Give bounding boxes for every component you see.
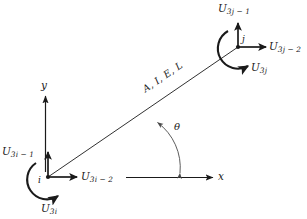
beam-element-diagram: U3j − 1 U3j − 2 U3j j U3i − 1 U3i − 2 U3…: [0, 0, 307, 219]
node-j-axial-dof-subscript: 3j − 2: [278, 45, 301, 54]
node-i-rotation-arrow: [27, 163, 58, 199]
node-i-rotation-dof-label: U3i: [41, 203, 57, 215]
node-i-transverse-dof-symbol: U: [2, 145, 11, 157]
node-j-rotation-dof-label: U3j: [251, 62, 267, 74]
node-j-axial-dof-symbol: U: [269, 40, 278, 52]
node-i-transverse-dof-label: U3i − 1: [2, 146, 34, 158]
node-j-axial-dof-label: U3j − 2: [269, 41, 301, 53]
node-j-rotation-dof-subscript: 3j: [260, 66, 267, 75]
y-axis-label: y: [41, 80, 47, 91]
node-i-axial-dof-label: U3i − 2: [81, 171, 113, 183]
node-i-rotation-dof-symbol: U: [41, 202, 50, 214]
x-axis-label: x: [218, 171, 224, 182]
node-j-transverse-dof-symbol: U: [218, 2, 227, 14]
node-i-axial-dof-symbol: U: [81, 170, 90, 182]
node-i-label: i: [38, 176, 41, 185]
diagram-canvas: [0, 0, 307, 219]
node-j-rotation-dof-symbol: U: [251, 61, 260, 73]
node-i-axial-dof-subscript: 3i − 2: [90, 175, 113, 184]
node-i-rotation-dof-subscript: 3i: [50, 207, 57, 216]
node-j-transverse-dof-label: U3j − 1: [218, 3, 250, 15]
angle-theta-label: θ: [174, 122, 180, 132]
node-i-transverse-dof-subscript: 3i − 1: [11, 150, 34, 159]
node-j-transverse-dof-subscript: 3j − 1: [227, 7, 250, 16]
beam-member-line: [48, 47, 238, 177]
node-j-label: j: [242, 35, 245, 44]
